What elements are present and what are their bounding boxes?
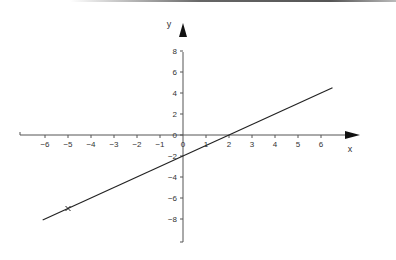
x-tick-label: 5 <box>296 140 301 149</box>
y-tick-label: 4 <box>173 89 178 98</box>
y-tick-label: −4 <box>168 173 178 182</box>
x-tick-label: 4 <box>273 140 278 149</box>
x-tick-label: 3 <box>250 140 255 149</box>
y-tick-label: −6 <box>168 194 178 203</box>
x-tick-label: −1 <box>155 140 165 149</box>
y-tick-label: 0 <box>173 131 178 140</box>
x-axis-label: x <box>348 144 353 154</box>
x-tick-label: −4 <box>86 140 96 149</box>
x-tick-label-zero: 0 <box>181 140 186 149</box>
y-tick-label: 2 <box>173 110 178 119</box>
x-tick-label: −5 <box>63 140 73 149</box>
y-axis-label: y <box>167 19 172 29</box>
y-axis-arrow-icon <box>179 23 187 37</box>
x-tick-label: −3 <box>109 140 119 149</box>
x-tick-label: 6 <box>319 140 324 149</box>
x-tick-label: 2 <box>227 140 232 149</box>
data-line <box>43 88 333 220</box>
y-tick-label: 8 <box>173 47 178 56</box>
x-tick-label: −2 <box>132 140 142 149</box>
y-tick-label: 6 <box>173 68 178 77</box>
y-tick-label: −8 <box>168 215 178 224</box>
x-tick-label: −6 <box>40 140 50 149</box>
line-chart: xy−6−5−4−3−2−11234560−8−6−4−202468 <box>0 0 396 260</box>
x-axis-arrow-icon <box>345 131 360 139</box>
